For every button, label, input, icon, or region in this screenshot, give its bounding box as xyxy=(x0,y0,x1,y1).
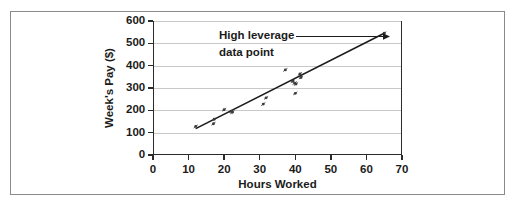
x-tick-mark-70 xyxy=(401,155,402,160)
x-tick-label-30: 30 xyxy=(240,163,280,175)
y-tick-label-300: 300 xyxy=(126,81,145,93)
x-tick-mark-60 xyxy=(366,155,367,160)
x-tick-label-50: 50 xyxy=(311,163,351,175)
plot-area xyxy=(153,21,402,155)
y-tick-label-100: 100 xyxy=(126,126,145,138)
gridline-y-100 xyxy=(154,133,401,134)
x-tick-label-0: 0 xyxy=(133,163,173,175)
x-tick-mark-20 xyxy=(223,155,224,160)
x-tick-label-60: 60 xyxy=(346,163,386,175)
chart-screenshot: Week's Pay ($) Hours Worked High leverag… xyxy=(0,0,521,206)
y-tick-label-600: 600 xyxy=(126,14,145,26)
annotation-text-line-2: data point xyxy=(219,46,274,58)
annotation-text-line-1: High leverage xyxy=(219,29,294,41)
x-tick-label-20: 20 xyxy=(204,163,244,175)
y-tick-mark-300 xyxy=(148,87,153,88)
gridline-y-200 xyxy=(154,110,401,111)
gridline-y-400 xyxy=(154,66,401,67)
x-axis-title: Hours Worked xyxy=(153,178,402,190)
y-tick-label-0: 0 xyxy=(139,148,145,160)
x-tick-label-40: 40 xyxy=(275,163,315,175)
y-axis-title: Week's Pay ($) xyxy=(103,0,117,28)
x-tick-mark-40 xyxy=(295,155,296,160)
y-tick-mark-200 xyxy=(148,110,153,111)
y-tick-mark-500 xyxy=(148,43,153,44)
y-tick-label-400: 400 xyxy=(126,59,145,71)
y-tick-mark-100 xyxy=(148,132,153,133)
gridline-y-600 xyxy=(154,21,401,22)
gridline-y-300 xyxy=(154,88,401,89)
x-tick-label-10: 10 xyxy=(169,163,209,175)
x-tick-mark-50 xyxy=(330,155,331,160)
y-axis-title-label: Week's Pay ($) xyxy=(103,28,115,148)
x-tick-label-70: 70 xyxy=(382,163,422,175)
y-tick-mark-600 xyxy=(148,20,153,21)
x-tick-mark-10 xyxy=(188,155,189,160)
y-tick-label-200: 200 xyxy=(126,103,145,115)
x-tick-mark-30 xyxy=(259,155,260,160)
y-tick-label-500: 500 xyxy=(126,36,145,48)
x-tick-mark-0 xyxy=(152,155,153,160)
gridline-y-500 xyxy=(154,43,401,44)
y-tick-mark-400 xyxy=(148,65,153,66)
